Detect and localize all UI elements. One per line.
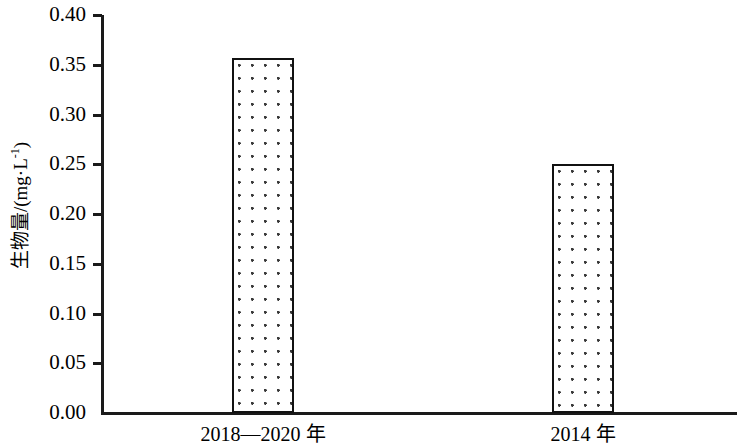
y-axis-tick — [93, 163, 102, 166]
bar-chart: 生物量/(mg·L-1) 0.400.350.300.250.200.150.1… — [0, 0, 737, 448]
y-axis-tick — [93, 213, 102, 216]
y-axis-tick-label: 0.20 — [0, 203, 86, 224]
y-axis-tick-label: 0.05 — [0, 352, 86, 373]
y-axis-tick — [93, 263, 102, 266]
y-axis-tick-label: 0.40 — [0, 4, 86, 25]
bar-2 — [552, 164, 614, 413]
y-axis-tick-label: 0.25 — [0, 153, 86, 174]
x-axis-category-label: 2014 年 — [551, 423, 616, 445]
bar-1 — [232, 58, 294, 413]
y-axis-tick — [93, 64, 102, 67]
y-axis-tick — [93, 114, 102, 117]
y-axis-tick — [93, 362, 102, 365]
y-axis-tick — [93, 14, 102, 17]
y-axis-title-suffix: ) — [10, 142, 31, 148]
y-axis-tick — [93, 313, 102, 316]
y-axis-tick-label: 0.15 — [0, 253, 86, 274]
y-axis-tick-label: 0.10 — [0, 303, 86, 324]
x-axis-line — [101, 412, 737, 415]
x-axis-category-label: 2018—2020 年 — [201, 423, 326, 445]
y-axis-tick-label: 0.30 — [0, 104, 86, 125]
y-axis-tick-label: 0.00 — [0, 402, 86, 423]
y-axis-tick-label: 0.35 — [0, 54, 86, 75]
